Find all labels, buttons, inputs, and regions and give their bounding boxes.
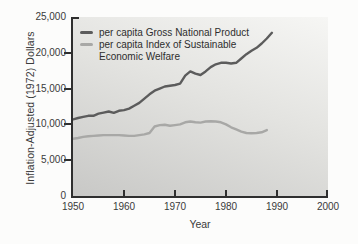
legend-label-gnp-text: per capita Gross National Product: [99, 27, 249, 39]
chart-figure: Inflation-Adjusted (1972) Dollars per ca…: [0, 0, 358, 244]
x-tick-label: 1960: [102, 201, 146, 213]
plot-area: per capita Gross National Product per ca…: [71, 17, 328, 198]
x-tick-mark: [174, 190, 176, 196]
legend-label-isew-line2: Economic Welfare: [99, 51, 236, 63]
legend: per capita Gross National Product per ca…: [80, 27, 249, 63]
x-tick-label: 1990: [255, 201, 299, 213]
x-tick-label: 1950: [51, 201, 95, 213]
legend-item-gnp: per capita Gross National Product: [80, 27, 249, 39]
x-tick-mark: [225, 190, 227, 196]
y-tick-mark: [73, 17, 79, 19]
gnp-line-marker-icon: [80, 31, 93, 34]
y-tick-label: 10,000: [0, 118, 66, 130]
y-tick-label: 15,000: [0, 83, 66, 95]
x-tick-label: 2000: [306, 201, 350, 213]
y-tick-label: 25,000: [0, 11, 66, 23]
x-tick-mark: [276, 190, 278, 196]
legend-item-isew: per capita Index of Sustainable Economic…: [80, 39, 249, 63]
x-axis-title: Year: [160, 218, 240, 230]
x-tick-mark: [326, 190, 328, 196]
y-tick-label: 20,000: [0, 47, 66, 59]
legend-label-gnp: per capita Gross National Product: [99, 27, 249, 39]
legend-label-isew: per capita Index of Sustainable Economic…: [99, 39, 236, 63]
x-tick-label: 1980: [204, 201, 248, 213]
x-tick-label: 1970: [153, 201, 197, 213]
isew-line: [73, 121, 267, 139]
isew-line-marker-icon: [80, 43, 93, 46]
x-tick-mark: [123, 190, 125, 196]
y-tick-label: 5,000: [0, 154, 66, 166]
legend-label-isew-line1: per capita Index of Sustainable: [99, 39, 236, 51]
